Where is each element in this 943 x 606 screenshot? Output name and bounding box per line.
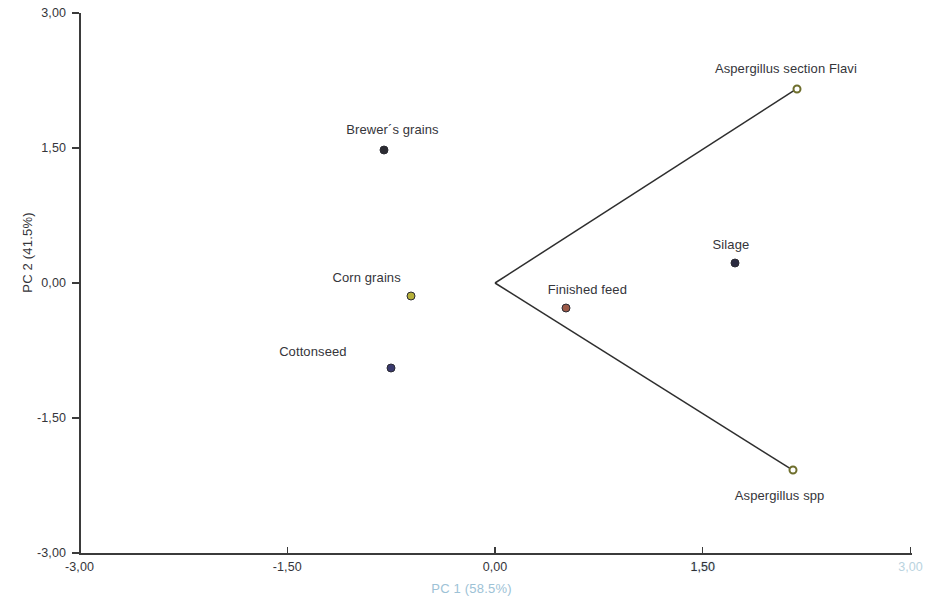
- data-point-marker[interactable]: [730, 259, 739, 268]
- y-axis-tick: [72, 147, 79, 148]
- vector-lines: [0, 0, 943, 606]
- x-axis-tick-label: -3,00: [65, 560, 94, 574]
- y-axis-tick-label: 1,50: [8, 141, 66, 155]
- x-axis-tick: [910, 547, 911, 554]
- data-point-label: Finished feed: [548, 282, 627, 297]
- data-point-marker[interactable]: [792, 84, 801, 93]
- data-point-marker[interactable]: [406, 291, 415, 300]
- y-axis-line: [79, 13, 81, 554]
- y-axis-tick: [72, 12, 79, 13]
- x-axis-tick: [494, 547, 495, 554]
- data-point-label: Aspergillus spp: [735, 488, 825, 503]
- data-point-label: Brewer´s grains: [346, 122, 439, 137]
- y-axis-tick-label: 0,00: [8, 276, 66, 290]
- x-axis-tick: [79, 547, 80, 554]
- x-axis-title: PC 1 (58.5%): [0, 581, 943, 596]
- data-point-label: Aspergillus section Flavi: [715, 61, 857, 76]
- data-point-label: Silage: [713, 237, 750, 252]
- y-axis-tick: [72, 282, 79, 283]
- y-axis-tick: [72, 417, 79, 418]
- data-point-marker[interactable]: [387, 363, 396, 372]
- data-point-label: Cottonseed: [279, 344, 347, 359]
- x-axis-tick: [287, 547, 288, 554]
- data-point-label: Corn grains: [333, 270, 401, 285]
- pca-biplot-figure: -3,00-1,500,001,503,00-3,00-1,500,001,50…: [0, 0, 943, 606]
- vector-to-aspergillus-spp: [495, 283, 793, 470]
- x-axis-tick-label: 1,50: [690, 560, 715, 574]
- y-axis-tick-label: -3,00: [8, 546, 66, 560]
- x-axis-tick-label: -1,50: [273, 560, 302, 574]
- x-axis-tick-label: 0,00: [483, 560, 508, 574]
- y-axis-title: PC 2 (41.5%): [20, 153, 35, 353]
- vector-to-aspergillus-section-flavi: [495, 89, 797, 283]
- data-point-marker[interactable]: [561, 304, 570, 313]
- x-axis-tick: [702, 547, 703, 554]
- data-point-marker[interactable]: [788, 466, 797, 475]
- data-point-marker[interactable]: [380, 145, 389, 154]
- y-axis-tick-label: -1,50: [8, 411, 66, 425]
- y-axis-tick-label: 3,00: [8, 6, 66, 20]
- x-axis-tick-label: 3,00: [898, 560, 923, 574]
